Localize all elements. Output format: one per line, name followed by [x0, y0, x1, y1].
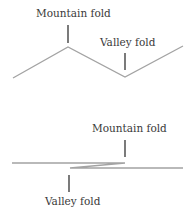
bottom-mountain-fold-label: Mountain fold: [92, 122, 167, 134]
top-fold-profile: [13, 25, 183, 78]
fold-diagram: [0, 0, 191, 224]
bottom-fold-profile: [12, 140, 183, 192]
bottom-valley-fold-label: Valley fold: [45, 195, 100, 207]
top-mountain-fold-label: Mountain fold: [36, 7, 111, 19]
top-valley-fold-label: Valley fold: [100, 36, 155, 48]
